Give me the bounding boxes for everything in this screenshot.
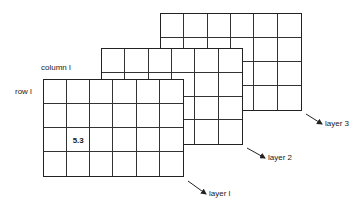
arrows [0,0,361,209]
layer-2-arrow [247,148,265,158]
layer-3-arrow [306,114,322,124]
layer-1-arrow [188,181,206,194]
